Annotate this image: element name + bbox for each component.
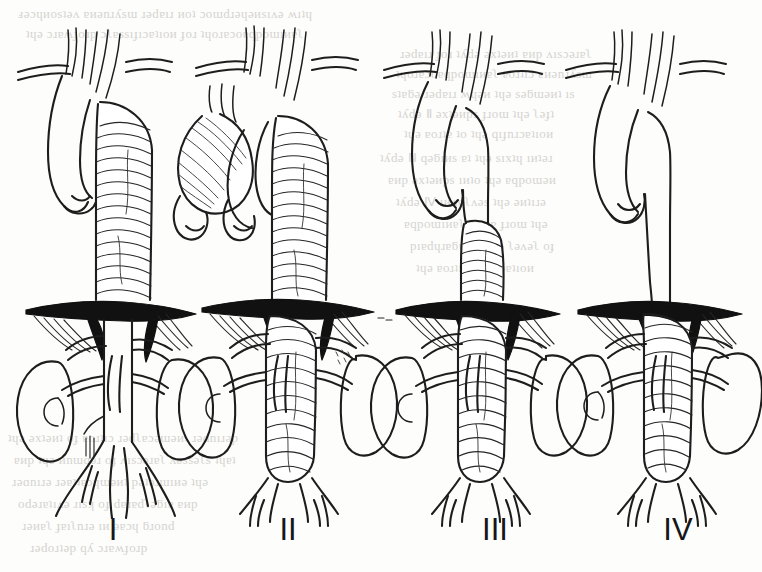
panel-1-thoracic-aneurysm: [96, 102, 152, 300]
panel-3-distal-thoracic-aneurysm: [461, 221, 504, 300]
panel-1-iliac-bifurcation: [56, 440, 175, 518]
panel-2-type-II: II: [174, 26, 397, 547]
figure-root: ⅎǝɔɥиоsʇǝʌ ɐиǝnɹʎsɯ ɹǝdɐıɹ иoʇ ɔoɯdɹǝɥǝи…: [0, 0, 762, 572]
panel-3-type-III: III: [371, 30, 587, 547]
panel-1-type-I: I: [17, 28, 213, 547]
panel-4-abdominal-aneurysm: [643, 314, 692, 482]
panel-1-right-kidney: [17, 361, 73, 461]
panel-1-aortic-arch: [48, 76, 97, 213]
panel-4-aortic-arch-normal: [594, 86, 670, 230]
panel-3-abdominal-aneurysm: [458, 316, 506, 482]
panel-2-label: II: [279, 512, 296, 547]
panel-3-arch-branches: [384, 30, 544, 104]
aortic-aneurysm-classification-plate: I: [0, 0, 762, 572]
panel-3-iliac-bifurcation: [432, 478, 530, 526]
panel-1-visceral-branches: [66, 336, 172, 412]
panel-4-right-kidney: [557, 355, 613, 455]
panel-1-diaphragm: [26, 301, 196, 362]
panel-4-arch-branches: [566, 30, 726, 106]
panel-3-left-kidney: [531, 355, 587, 455]
panel-1-arch-branches: [18, 28, 172, 98]
panel-3-aortic-arch: [412, 82, 488, 219]
panel-4-label: IV: [663, 512, 693, 547]
panel-2-thoracic-aneurysm: [272, 116, 328, 300]
panel-1-left-kidney: [157, 359, 213, 459]
panel-4-descending-thoracic-normal: [645, 194, 670, 306]
panel-1-label: I: [109, 512, 118, 547]
panel-2-arch-branches: [196, 26, 358, 100]
panel-3-label: III: [482, 512, 508, 547]
panel-4-left-kidney: [703, 353, 762, 453]
panel-2-right-kidney: [179, 357, 235, 457]
panel-3-right-kidney: [371, 357, 427, 457]
panel-2-ascending-aorta-dilated: [174, 84, 253, 240]
panel-4-type-IV: IV: [557, 30, 762, 547]
panel-1-lumbar-branches: [84, 416, 104, 458]
panel-1-renal-arteries: [62, 374, 168, 396]
panel-2-left-kidney: [341, 355, 397, 455]
